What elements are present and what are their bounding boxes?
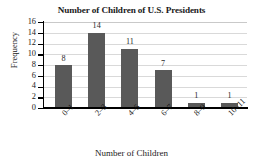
bar-chart: Number of Children of U.S. Presidents Fr… (0, 0, 263, 166)
y-tick-mark (38, 44, 44, 45)
gridline (44, 44, 247, 45)
gridline (44, 65, 247, 66)
y-tick-mark (38, 54, 44, 55)
y-tick-mark (38, 87, 44, 88)
y-tick-label: 6 (0, 72, 36, 80)
y-tick-mark (38, 76, 44, 77)
gridline (44, 76, 247, 77)
bar-value-label: 14 (83, 22, 111, 30)
y-tick-mark (38, 33, 44, 34)
y-tick-mark (38, 108, 44, 109)
bar (88, 33, 105, 108)
y-tick-mark (38, 97, 44, 98)
bar-value-label: 11 (116, 38, 144, 46)
y-tick-label: 12 (0, 39, 36, 47)
gridline (44, 22, 247, 23)
y-tick-label: 4 (0, 82, 36, 90)
y-tick-mark (38, 22, 44, 23)
y-tick-label: 16 (0, 18, 36, 26)
y-tick-label: 14 (0, 29, 36, 37)
gridline (44, 33, 247, 34)
bar (55, 65, 72, 108)
bar-value-label: 8 (50, 55, 78, 63)
y-tick-mark (38, 65, 44, 66)
chart-title: Number of Children of U.S. Presidents (0, 5, 263, 16)
y-tick-label: 10 (0, 50, 36, 58)
bar-value-label: 7 (149, 60, 177, 68)
y-tick-label: 8 (0, 61, 36, 69)
bar (121, 49, 138, 108)
y-tick-label: 2 (0, 93, 36, 101)
y-tick-label: 0 (0, 104, 36, 112)
x-axis-title: Number of Children (0, 148, 263, 158)
